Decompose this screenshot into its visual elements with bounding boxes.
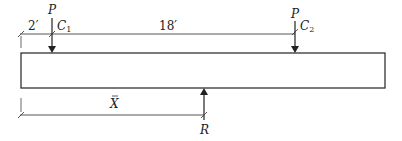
point-c2-label: C2 [300,20,314,34]
reaction-label: R [200,124,209,136]
dimension-left-offset: 2′ [28,20,38,32]
dimension-between-loads: 18′ [159,20,177,32]
load-p2-label: P [291,8,299,20]
load-p2-arrowhead [291,46,299,53]
point-c1-label: C1 [57,20,71,34]
load-p1-arrowhead [48,46,56,53]
point-c1-subscript: 1 [66,25,71,34]
load-p1-label: P [48,4,56,16]
point-c2-subscript: 2 [309,25,314,34]
point-c1-letter: C [57,19,66,33]
reaction-arrowhead [200,88,208,95]
point-c2-letter: C [300,19,309,33]
beam [21,53,385,88]
resultant-distance-label: X [110,98,119,110]
